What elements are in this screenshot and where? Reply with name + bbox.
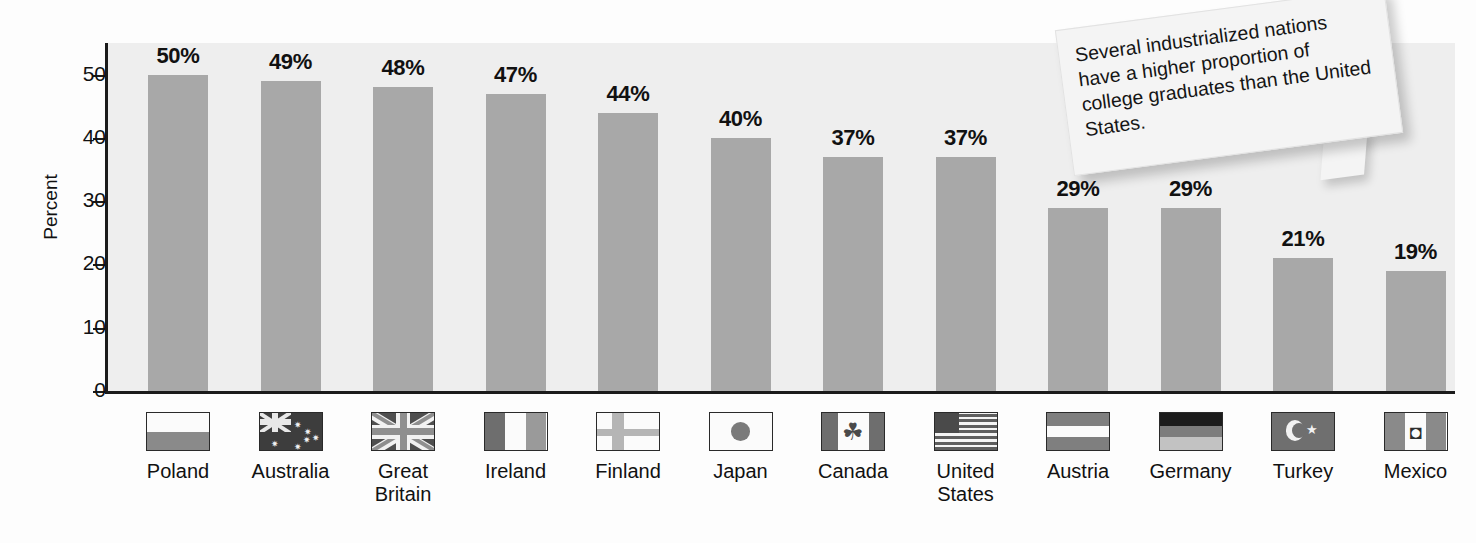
chart-page: 01020304050 Percent 50%49%48%47%44%40%37… [0, 0, 1476, 543]
union-jack [372, 413, 434, 450]
y-tick-label: 50 [54, 62, 106, 86]
flag-canada-icon: ☘ [821, 412, 885, 451]
flag-austria-icon [1046, 412, 1110, 451]
category-label: Turkey [1247, 460, 1359, 483]
callout-text: Several industrialized nations have a hi… [1056, 0, 1398, 144]
bar[interactable] [936, 157, 996, 391]
eagle-emblem-icon: ◘ [1409, 422, 1421, 442]
bar[interactable] [1273, 258, 1333, 391]
bar-value-label: 48% [348, 55, 458, 81]
flag-turkey-icon: ★ [1271, 412, 1335, 451]
star-icon: ✷ [294, 443, 302, 451]
flag-great-britain-icon [371, 412, 435, 451]
flag-mexico-icon: ◘ [1384, 412, 1448, 451]
category-cell[interactable]: United States [910, 404, 1022, 506]
bar[interactable] [711, 138, 771, 391]
bar-value-label: 47% [461, 62, 571, 88]
category-cell[interactable]: Ireland [460, 404, 572, 483]
flag-finland-icon [596, 412, 660, 451]
category-label: Canada [797, 460, 909, 483]
flag-ireland-icon [484, 412, 548, 451]
category-label: Australia [235, 460, 347, 483]
bar-value-label: 29% [1023, 176, 1133, 202]
flag-united-states-icon [934, 412, 998, 451]
x-axis-line [105, 391, 1455, 394]
y-axis-label: Percent [40, 147, 62, 267]
bar[interactable] [598, 113, 658, 391]
flag-australia-icon: ✷✷✷✷✷✷ [259, 412, 323, 451]
y-tick-label: 0 [54, 378, 106, 402]
y-tick-label: 10 [54, 315, 106, 339]
maple-leaf-icon: ☘ [842, 420, 864, 444]
bar-value-label: 29% [1136, 176, 1246, 202]
category-cell[interactable]: Great Britain [347, 404, 459, 506]
bar-value-label: 40% [686, 106, 796, 132]
y-axis-line [105, 43, 108, 393]
bar-value-label: 44% [573, 81, 683, 107]
bar[interactable] [823, 157, 883, 391]
category-cell[interactable]: ◘Mexico [1360, 404, 1472, 483]
category-label: Austria [1022, 460, 1134, 483]
bar[interactable] [261, 81, 321, 391]
star-icon: ✷ [303, 436, 311, 445]
bar[interactable] [486, 94, 546, 391]
bar-value-label: 19% [1361, 239, 1471, 265]
category-cell[interactable]: Japan [685, 404, 797, 483]
category-label: United States [910, 460, 1022, 506]
sun-disc [731, 422, 751, 441]
star-canton [935, 413, 960, 433]
bar[interactable] [1386, 271, 1446, 391]
category-label: Germany [1135, 460, 1247, 483]
star-icon: ✷ [312, 434, 320, 443]
star-icon: ★ [1306, 423, 1318, 436]
category-cell[interactable]: Germany [1135, 404, 1247, 483]
bar-value-label: 50% [123, 43, 233, 69]
flag-germany-icon [1159, 412, 1223, 451]
category-cell[interactable]: Austria [1022, 404, 1134, 483]
crescent-icon [1286, 420, 1305, 440]
star-icon: ✷ [271, 440, 279, 449]
bar[interactable] [373, 87, 433, 391]
category-cell[interactable]: Poland [122, 404, 234, 483]
category-label: Great Britain [347, 460, 459, 506]
bar[interactable] [1161, 208, 1221, 391]
category-label: Ireland [460, 460, 572, 483]
bar-value-label: 21% [1248, 226, 1358, 252]
bar-value-label: 37% [798, 125, 908, 151]
y-tick-label: 40 [54, 125, 106, 149]
category-label: Mexico [1360, 460, 1472, 483]
flag-poland-icon [146, 412, 210, 451]
union-jack-canton [260, 413, 291, 432]
category-cell[interactable]: Finland [572, 404, 684, 483]
category-cell[interactable]: ☘Canada [797, 404, 909, 483]
bar[interactable] [1048, 208, 1108, 391]
category-label: Japan [685, 460, 797, 483]
bar-value-label: 49% [236, 49, 346, 75]
bar[interactable] [148, 75, 208, 391]
category-cell[interactable]: ✷✷✷✷✷✷Australia [235, 404, 347, 483]
flag-japan-icon [709, 412, 773, 451]
category-label: Poland [122, 460, 234, 483]
category-cell[interactable]: ★Turkey [1247, 404, 1359, 483]
star-icon: ✷ [294, 421, 302, 430]
category-label: Finland [572, 460, 684, 483]
bar-value-label: 37% [911, 125, 1021, 151]
